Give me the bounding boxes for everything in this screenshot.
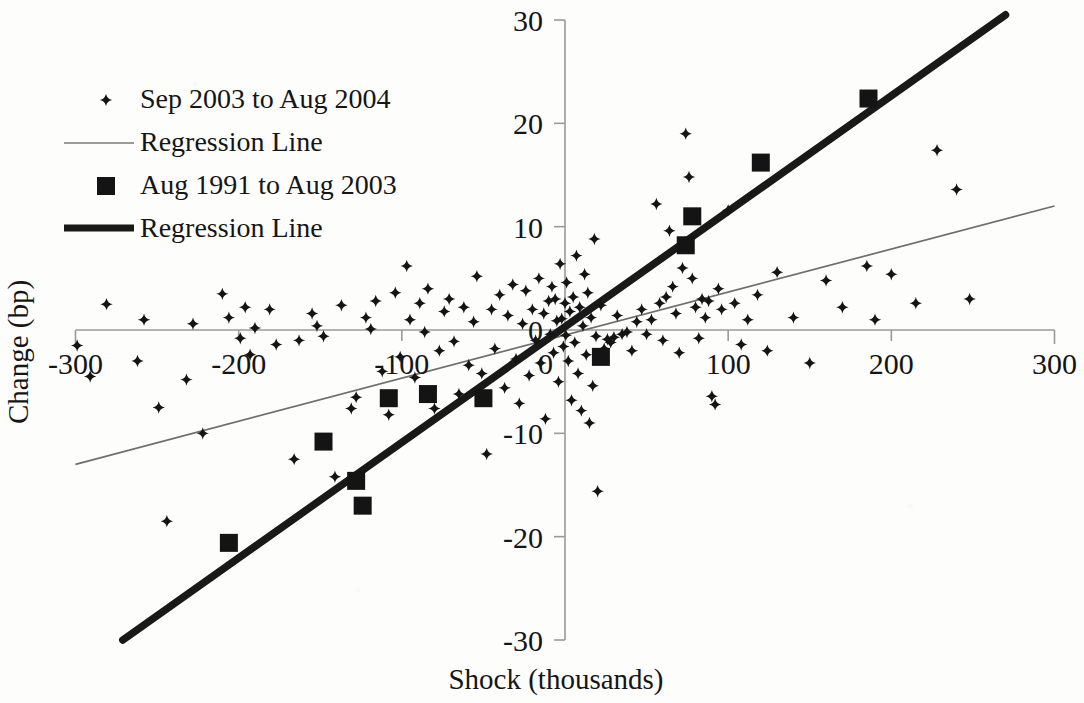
data-point-cross [836, 301, 848, 313]
data-point-cross [480, 448, 492, 460]
data-point-cross [467, 316, 479, 328]
data-point-cross [686, 272, 698, 284]
legend-item-label: Regression Line [140, 126, 323, 157]
data-point-cross [626, 344, 638, 356]
x-tick-label: -300 [48, 347, 103, 380]
data-point-square [220, 534, 238, 552]
legend-item-label: Regression Line [140, 212, 323, 243]
y-tick-label: 30 [513, 4, 543, 37]
data-point-cross [345, 402, 357, 414]
data-point-cross [401, 260, 413, 272]
chart-legend: Sep 2003 to Aug 2004Regression LineAug 1… [64, 83, 397, 243]
data-point-square [315, 433, 333, 451]
data-point-cross [161, 515, 173, 527]
y-tick-label: -20 [503, 521, 543, 554]
data-point-cross [709, 398, 721, 410]
y-tick-label: 10 [513, 211, 543, 244]
data-point-cross [706, 390, 718, 402]
data-point-square [677, 236, 695, 254]
data-point-cross [542, 295, 554, 307]
data-point-cross [422, 282, 434, 294]
data-point-cross [494, 289, 506, 301]
data-point-cross [335, 299, 347, 311]
data-point-square [683, 207, 701, 225]
y-tick-label: -30 [503, 624, 543, 657]
data-point-cross [575, 404, 587, 416]
data-point-cross [663, 225, 675, 237]
data-point-cross [804, 357, 816, 369]
data-point-cross [418, 326, 430, 338]
data-point-cross [676, 262, 688, 274]
x-tick-label: 200 [869, 347, 914, 380]
data-point-cross [861, 260, 873, 272]
data-point-cross [448, 335, 460, 347]
data-point-cross [520, 285, 532, 297]
data-point-cross [673, 347, 685, 359]
data-point-cross [533, 272, 545, 284]
data-point-cross [131, 355, 143, 367]
data-point-cross [138, 313, 150, 325]
data-point-cross [507, 278, 519, 290]
data-point-cross [587, 380, 599, 392]
data-point-cross [693, 332, 705, 344]
data-point-square [354, 497, 372, 515]
data-point-cross [699, 311, 711, 323]
data-point-cross [910, 297, 922, 309]
data-point-cross [562, 355, 574, 367]
data-point-cross [216, 288, 228, 300]
data-point-cross [572, 367, 584, 379]
data-point-cross [728, 297, 740, 309]
data-point-square [347, 472, 365, 490]
data-point-cross [931, 144, 943, 156]
data-point-cross [696, 293, 708, 305]
data-point-cross [552, 375, 564, 387]
data-point-cross [557, 340, 569, 352]
data-point-cross [742, 313, 754, 325]
data-point-cross [590, 330, 602, 342]
data-point-cross [329, 471, 341, 483]
legend-marker-cross [100, 94, 112, 106]
data-point-cross [404, 313, 416, 325]
data-point-square [752, 154, 770, 172]
data-point-square [419, 385, 437, 403]
data-point-cross [670, 307, 682, 319]
data-point-cross [645, 313, 657, 325]
data-point-cross [751, 289, 763, 301]
data-point-cross [180, 373, 192, 385]
data-point-cross [771, 266, 783, 278]
data-point-cross [650, 198, 662, 210]
data-point-cross [317, 330, 329, 342]
data-point-cross [458, 301, 470, 313]
data-point-cross [578, 268, 590, 280]
data-point-cross [580, 349, 592, 361]
data-point-cross [565, 394, 577, 406]
data-point-square [859, 90, 877, 108]
data-point-cross [950, 183, 962, 195]
y-tick-label: -10 [503, 417, 543, 450]
data-point-cross [583, 417, 595, 429]
legend-marker-square [97, 177, 115, 195]
data-point-cross [523, 369, 535, 381]
data-point-cross [715, 303, 727, 315]
data-points [71, 90, 976, 552]
data-point-cross [471, 270, 483, 282]
legend-item-label: Aug 1991 to Aug 2003 [140, 169, 397, 200]
data-point-cross [306, 307, 318, 319]
data-point-cross [263, 303, 275, 315]
data-point-cross [463, 359, 475, 371]
data-point-cross [787, 311, 799, 323]
data-point-cross [820, 274, 832, 286]
data-point-cross [370, 295, 382, 307]
data-point-cross [567, 291, 579, 303]
data-point-cross [443, 293, 455, 305]
data-point-square [592, 348, 610, 366]
data-point-cross [513, 397, 525, 409]
data-point-cross [153, 401, 165, 413]
data-point-cross [657, 334, 669, 346]
data-point-cross [234, 332, 246, 344]
data-point-cross [666, 280, 678, 292]
data-point-cross [288, 453, 300, 465]
data-point-cross [270, 338, 282, 350]
data-point-cross [365, 323, 377, 335]
x-tick-label: -100 [374, 347, 429, 380]
